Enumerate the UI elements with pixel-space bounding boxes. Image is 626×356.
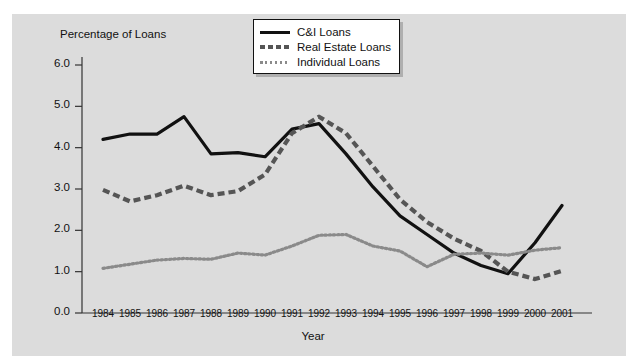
legend-item-ci-loans: C&I Loans — [260, 24, 391, 39]
x-tick-label: 2000 — [520, 308, 550, 319]
y-axis-title: Percentage of Loans — [60, 28, 166, 40]
x-tick-label: 1990 — [250, 308, 280, 319]
x-tick-label: 1998 — [466, 308, 496, 319]
x-tick-label: 1989 — [223, 308, 253, 319]
x-tick-label: 1988 — [196, 308, 226, 319]
x-tick-label: 1984 — [88, 308, 118, 319]
y-tick-label: 2.0 — [36, 222, 70, 234]
legend-item-individual-loans: Individual Loans — [260, 54, 391, 69]
x-tick-label: 1993 — [331, 308, 361, 319]
x-tick-label: 1986 — [142, 308, 172, 319]
y-tick-label: 4.0 — [36, 140, 70, 152]
series-line-individual-loans — [103, 234, 562, 268]
y-tick-label: 0.0 — [36, 305, 70, 317]
legend-item-real-estate-loans: Real Estate Loans — [260, 39, 391, 54]
x-tick-label: 1997 — [439, 308, 469, 319]
y-tick-label: 1.0 — [36, 264, 70, 276]
x-tick-label: 1991 — [277, 308, 307, 319]
series-line-c-i-loans — [103, 117, 562, 274]
y-tick-label: 3.0 — [36, 181, 70, 193]
x-axis-title: Year — [0, 330, 626, 342]
x-tick-label: 1985 — [115, 308, 145, 319]
legend-key-dotted-line-icon — [260, 56, 290, 68]
x-tick-label: 1996 — [412, 308, 442, 319]
legend-label: C&I Loans — [297, 26, 351, 38]
chart-legend: C&I Loans Real Estate Loans Individual L… — [253, 19, 400, 74]
legend-label: Individual Loans — [297, 56, 380, 68]
y-tick-label: 6.0 — [36, 57, 70, 69]
x-tick-label: 1994 — [358, 308, 388, 319]
x-tick-label: 2001 — [547, 308, 577, 319]
chart-figure: Percentage of Loans Year 0.01.02.03.04.0… — [0, 0, 626, 356]
x-tick-label: 1999 — [493, 308, 523, 319]
legend-key-solid-line-icon — [260, 26, 290, 38]
legend-label: Real Estate Loans — [297, 41, 391, 53]
legend-key-dashed-line-icon — [260, 41, 290, 53]
x-tick-label: 1992 — [304, 308, 334, 319]
x-tick-label: 1987 — [169, 308, 199, 319]
y-tick-label: 5.0 — [36, 98, 70, 110]
x-tick-label: 1995 — [385, 308, 415, 319]
